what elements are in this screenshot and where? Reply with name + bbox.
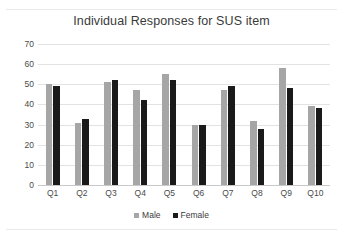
y-axis-tick-label: 10 xyxy=(25,160,34,170)
chart-legend: MaleFemale xyxy=(0,210,343,220)
x-axis-tick-label: Q9 xyxy=(281,188,292,198)
bar-group xyxy=(308,44,322,185)
bar-q7-female[interactable] xyxy=(228,86,235,185)
y-axis-tick-labels: 010203040506070 xyxy=(6,44,34,185)
bar-group xyxy=(133,44,147,185)
bar-q4-female[interactable] xyxy=(141,100,148,185)
legend-entry-male[interactable]: Male xyxy=(134,210,160,220)
bar-group xyxy=(221,44,235,185)
bar-group xyxy=(75,44,89,185)
y-axis-tick-label: 50 xyxy=(25,79,34,89)
x-axis-tick-label: Q4 xyxy=(135,188,146,198)
y-axis-tick-label: 30 xyxy=(25,120,34,130)
legend-label: Male xyxy=(142,210,160,220)
y-axis-tick-label: 60 xyxy=(25,59,34,69)
y-axis-tick-label: 70 xyxy=(25,39,34,49)
x-axis-tick-label: Q5 xyxy=(164,188,175,198)
bar-q5-male[interactable] xyxy=(162,74,169,185)
x-axis-tick-label: Q8 xyxy=(251,188,262,198)
chart-container: Individual Responses for SUS item 010203… xyxy=(0,0,343,242)
bar-q1-female[interactable] xyxy=(53,86,60,185)
bar-group xyxy=(192,44,206,185)
y-axis-tick-label: 0 xyxy=(29,180,34,190)
legend-swatch-icon xyxy=(173,213,178,218)
bar-q8-male[interactable] xyxy=(250,121,257,185)
legend-label: Female xyxy=(181,210,209,220)
x-axis-tick-label: Q10 xyxy=(307,188,323,198)
plot-area xyxy=(38,44,330,185)
bar-q3-female[interactable] xyxy=(112,80,119,185)
x-axis-tick-label: Q7 xyxy=(222,188,233,198)
bar-q9-female[interactable] xyxy=(287,88,294,185)
y-axis-tick-label: 40 xyxy=(25,99,34,109)
bar-q10-female[interactable] xyxy=(316,108,323,185)
top-divider xyxy=(6,9,337,10)
bars-layer xyxy=(38,44,330,185)
bar-q8-female[interactable] xyxy=(258,129,265,185)
x-axis-tick-label: Q2 xyxy=(76,188,87,198)
bar-q2-female[interactable] xyxy=(82,119,89,185)
bar-group xyxy=(250,44,264,185)
gridline xyxy=(38,185,330,186)
bottom-divider xyxy=(6,229,337,230)
x-axis-tick-label: Q1 xyxy=(47,188,58,198)
legend-entry-female[interactable]: Female xyxy=(173,210,209,220)
bar-q10-male[interactable] xyxy=(308,106,315,185)
x-axis-tick-label: Q6 xyxy=(193,188,204,198)
y-axis-tick-label: 20 xyxy=(25,140,34,150)
bar-q5-female[interactable] xyxy=(170,80,177,185)
bar-q6-female[interactable] xyxy=(199,125,206,185)
x-axis-tick-labels: Q1Q2Q3Q4Q5Q6Q7Q8Q9Q10 xyxy=(38,188,330,202)
bar-group xyxy=(279,44,293,185)
bar-q4-male[interactable] xyxy=(133,90,140,185)
bar-q9-male[interactable] xyxy=(279,68,286,185)
bar-group xyxy=(162,44,176,185)
x-axis-tick-label: Q3 xyxy=(105,188,116,198)
bar-group xyxy=(46,44,60,185)
bar-group xyxy=(104,44,118,185)
bar-q3-male[interactable] xyxy=(104,82,111,185)
chart-title: Individual Responses for SUS item xyxy=(0,14,343,28)
bar-q2-male[interactable] xyxy=(75,123,82,185)
bar-q1-male[interactable] xyxy=(46,84,53,185)
legend-swatch-icon xyxy=(134,213,139,218)
bar-q6-male[interactable] xyxy=(192,125,199,185)
bar-q7-male[interactable] xyxy=(221,90,228,185)
